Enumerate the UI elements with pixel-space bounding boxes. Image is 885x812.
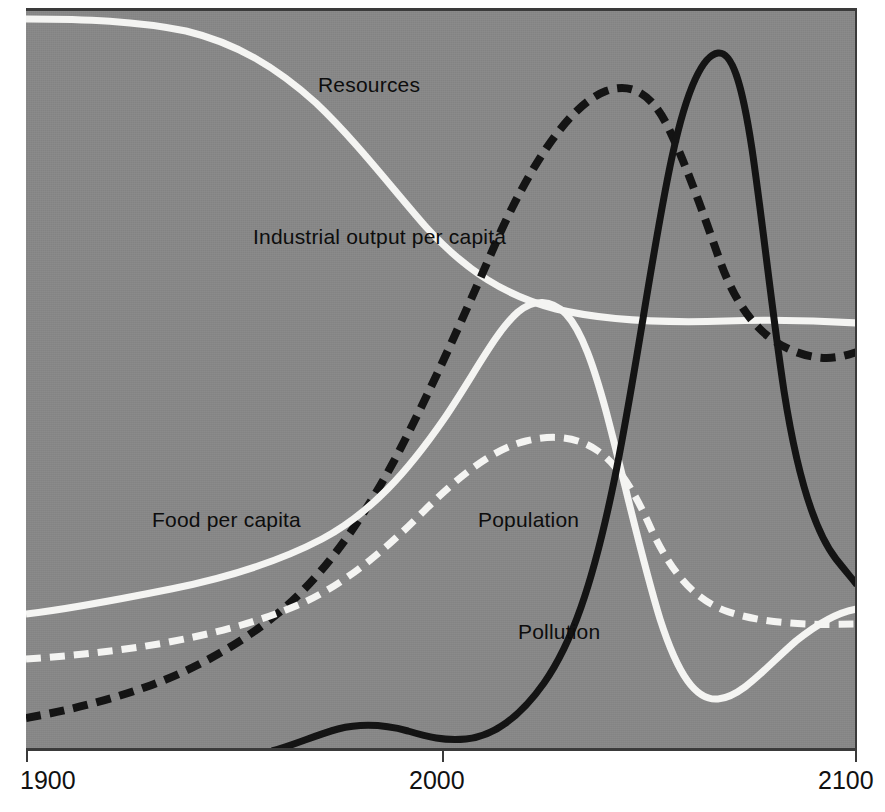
x-tick-1900 (26, 748, 28, 762)
x-tick-label-2000: 2000 (409, 768, 465, 793)
x-tick-label-1900: 1900 (20, 768, 76, 793)
world-model-chart-figure: Resources Industrial output per capita F… (0, 0, 885, 812)
curve-label-pollution: Pollution (518, 621, 600, 642)
x-tick-2000 (442, 748, 444, 762)
plot-area (26, 8, 857, 748)
curve-label-industrial-output-per-capita: Industrial output per capita (253, 226, 506, 247)
curve-label-population: Population (478, 509, 579, 530)
curve-label-resources: Resources (318, 74, 420, 95)
curve-pollution (272, 53, 857, 748)
curve-industrial-output-per-capita (26, 88, 857, 718)
x-tick-2100 (855, 748, 857, 762)
curve-label-food-per-capita: Food per capita (152, 509, 301, 530)
curve-population (26, 437, 857, 659)
x-tick-label-2100: 2100 (818, 768, 874, 793)
curves-svg (26, 11, 857, 748)
